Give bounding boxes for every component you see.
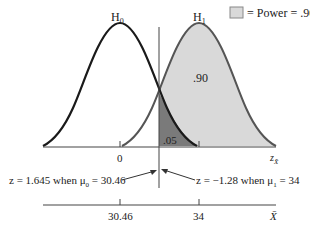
power-value: .90	[193, 71, 208, 85]
power-chart: = Power = .90 H0 H1 .90 .05 0 zX̄ z = 1.…	[0, 0, 310, 234]
alpha-value: .05	[163, 134, 177, 146]
arrow-left	[122, 171, 155, 180]
h0-label: H0	[111, 10, 124, 26]
legend-label: = Power = .90	[247, 6, 310, 20]
annotation-h0: z = 1.645 when μ0 = 30.46	[9, 174, 126, 189]
legend-swatch	[230, 7, 243, 18]
xbar-tick-34: 34	[193, 210, 205, 222]
z-tick-0: 0	[117, 152, 123, 164]
xbar-axis-label: X̄	[269, 210, 278, 222]
h1-label: H1	[193, 10, 206, 26]
annotation-h1: z = −1.28 when μ1 = 34	[196, 174, 300, 189]
arrow-right	[164, 170, 195, 180]
xbar-tick-30-46: 30.46	[108, 210, 133, 222]
z-axis-label: zX̄	[269, 152, 279, 166]
